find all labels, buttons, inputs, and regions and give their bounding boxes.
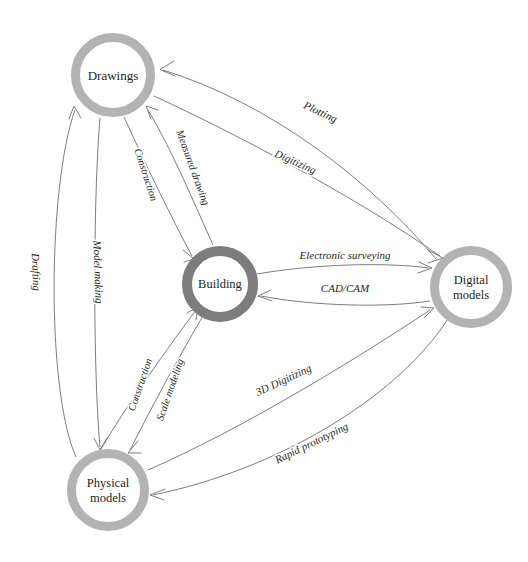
edge-construction-bottom-line xyxy=(101,310,196,449)
edge-label-rapid-prototyping: Rapid prototyping xyxy=(272,420,350,466)
edge-label-drafting: Drafting xyxy=(30,252,43,292)
node-physical-label-line: models xyxy=(90,491,126,505)
edge-construction-bottom xyxy=(101,307,198,449)
edge-label-cad-cam: CAD/CAM xyxy=(321,282,370,294)
diagram-canvas: DrawingsBuildingDigitalmodelsPhysicalmod… xyxy=(0,0,528,562)
edge-label-measured-drawing: Measured drawing xyxy=(174,128,212,207)
edge-label-digitizing: Digitizing xyxy=(272,147,318,176)
edge-drafting-arrowhead xyxy=(69,106,81,119)
node-physical[interactable]: Physicalmodels xyxy=(72,454,145,527)
edge-label-model-making: Model making xyxy=(91,239,105,304)
node-building[interactable]: Building xyxy=(187,251,253,317)
edge-label-electronic-surveying: Electronic surveying xyxy=(299,249,391,261)
edge-label-plotting: Plotting xyxy=(301,98,340,124)
edge-rapid-prototyping xyxy=(150,319,448,500)
node-digital-label-line: models xyxy=(453,288,489,302)
node-drawings-label: Drawings xyxy=(88,68,139,83)
edge-cad-cam-line xyxy=(261,296,430,305)
edge-label-3d-digitizing: 3D Digitizing xyxy=(253,361,314,398)
process-relationship-diagram: DrawingsBuildingDigitalmodelsPhysicalmod… xyxy=(0,0,528,562)
node-digital-label-line: Digital xyxy=(454,273,489,287)
edge-electronic-surveying-line xyxy=(257,265,429,274)
edge-3d-digitizing-arrowhead xyxy=(421,307,434,318)
node-digital-label: Digitalmodels xyxy=(453,273,489,301)
edge-drafting xyxy=(54,106,81,457)
edge-model-making-arrowhead xyxy=(94,438,107,450)
edge-measured-drawing xyxy=(146,106,213,245)
edge-rapid-prototyping-line xyxy=(153,319,448,495)
edge-scale-modeling-arrowhead xyxy=(128,441,141,453)
node-physical-label-line: Physical xyxy=(87,476,130,490)
node-building-label-line: Building xyxy=(198,277,243,291)
edge-drafting-line xyxy=(54,110,76,457)
edge-label-scale-modeling: Scale modeling xyxy=(154,357,185,422)
edge-electronic-surveying xyxy=(257,262,432,274)
node-drawings-label-line: Drawings xyxy=(88,68,139,83)
node-building-label: Building xyxy=(198,277,243,291)
node-digital[interactable]: Digitalmodels xyxy=(435,251,508,324)
edge-label-construction-top: Construction xyxy=(132,147,159,203)
node-drawings[interactable]: Drawings xyxy=(76,38,151,113)
node-physical-label: Physicalmodels xyxy=(87,476,130,504)
edge-label-construction-bottom: Construction xyxy=(126,357,154,412)
edge-cad-cam-arrowhead xyxy=(258,290,272,301)
edge-plotting-arrowhead xyxy=(160,61,175,76)
